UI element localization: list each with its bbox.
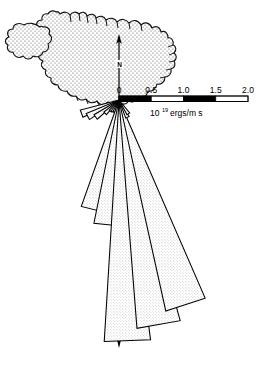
scalebar-tick-label: 0.5 xyxy=(145,85,157,95)
scalebar-tick-label: 1.0 xyxy=(178,85,190,95)
scalebar-tick-label: 2.0 xyxy=(242,85,254,95)
unit-mantissa: 10 xyxy=(150,108,160,118)
scalebar-segment xyxy=(119,96,151,102)
scalebar-segment xyxy=(151,96,183,102)
scalebar-layer: 00.51.01.52.0 10 19 ergs/m s xyxy=(0,0,258,368)
scalebar-segment xyxy=(216,96,248,102)
scalebar-tick-labels: 00.51.01.52.0 xyxy=(117,85,255,95)
scalebar: 00.51.01.52.0 xyxy=(117,85,255,102)
scalebar-segments xyxy=(119,96,248,102)
scalebar-tick-label: 1.5 xyxy=(210,85,222,95)
energy-flux-rose-figure: N 00.51.01.52.0 10 19 ergs/m s xyxy=(0,0,258,368)
scalebar-unit-label: 10 19 ergs/m s xyxy=(150,107,203,119)
unit-rest: ergs/m s xyxy=(170,108,203,118)
scalebar-segment xyxy=(184,96,216,102)
scalebar-tick-label: 0 xyxy=(117,85,122,95)
unit-exponent: 19 xyxy=(162,107,168,113)
